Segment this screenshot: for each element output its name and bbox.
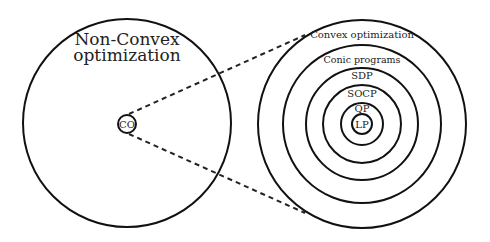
co-label: CO (119, 119, 135, 130)
convex-hierarchy: Convex optimization Conic programs SDP S… (258, 20, 466, 228)
non-convex-region: Non-Convex optimization CO (23, 19, 231, 227)
optimization-hierarchy-diagram: Non-Convex optimization CO Convex optimi… (0, 0, 490, 242)
label-lp: LP (355, 119, 369, 130)
non-convex-title-line2: optimization (73, 45, 181, 65)
label-socp: SOCP (347, 88, 377, 99)
label-conic-programs: Conic programs (324, 54, 401, 65)
label-sdp: SDP (351, 70, 373, 81)
label-convex-optimization: Convex optimization (310, 29, 414, 40)
label-qp: QP (355, 103, 370, 114)
